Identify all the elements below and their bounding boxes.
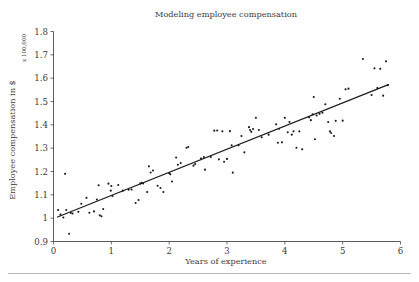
y-tick-label: 1.1 <box>34 190 48 200</box>
data-point <box>268 134 270 136</box>
data-point <box>371 94 373 96</box>
data-point <box>100 215 102 217</box>
trendline <box>58 85 389 217</box>
data-point <box>295 147 297 149</box>
data-point <box>102 208 104 210</box>
data-point <box>80 203 82 205</box>
data-point <box>345 88 347 90</box>
data-point <box>98 184 100 186</box>
data-point <box>68 233 70 235</box>
data-point <box>382 95 384 97</box>
data-point <box>96 198 98 200</box>
data-point <box>232 172 234 174</box>
data-point <box>362 58 364 60</box>
data-point <box>226 158 228 160</box>
y-axis-ticks: 0.911.11.21.31.41.51.61.71.8 <box>34 27 53 247</box>
data-point <box>93 210 95 212</box>
data-point <box>180 162 182 164</box>
data-point <box>150 171 152 173</box>
data-point <box>229 130 231 132</box>
data-point <box>313 96 315 98</box>
data-point <box>88 212 90 214</box>
data-point <box>157 185 159 187</box>
data-point <box>284 117 286 119</box>
data-point <box>373 67 375 69</box>
y-axis-units: x 100,000 <box>21 34 27 63</box>
data-point <box>218 158 220 160</box>
data-point <box>187 146 189 148</box>
y-tick-label: 1.5 <box>34 97 48 107</box>
x-tick-label: 4 <box>282 246 288 256</box>
data-point <box>107 183 109 185</box>
trendline-segment <box>58 85 389 217</box>
data-point <box>252 128 254 130</box>
data-point <box>298 130 300 132</box>
data-point <box>316 114 318 116</box>
y-tick-label: 1.4 <box>34 120 48 130</box>
data-point <box>110 185 112 187</box>
x-axis-title: Years of experience <box>184 256 266 266</box>
data-point <box>175 156 177 158</box>
data-point <box>64 173 66 175</box>
data-point <box>314 138 316 140</box>
data-point <box>333 135 335 137</box>
x-tick-label: 5 <box>340 246 345 256</box>
data-point <box>216 129 218 131</box>
y-tick-label: 0.9 <box>34 237 48 247</box>
data-point <box>137 199 139 201</box>
data-point <box>339 98 341 100</box>
data-point <box>192 165 194 167</box>
data-point <box>281 141 283 143</box>
data-point <box>223 161 225 163</box>
data-point <box>327 121 329 123</box>
data-point <box>204 169 206 171</box>
data-point <box>62 216 64 218</box>
data-point <box>248 126 250 128</box>
data-point <box>148 165 150 167</box>
data-point <box>249 129 251 131</box>
data-point <box>171 180 173 182</box>
data-point <box>194 163 196 165</box>
data-point <box>250 131 252 133</box>
x-tick-label: 2 <box>166 246 171 256</box>
data-point <box>169 173 171 175</box>
x-tick-label: 1 <box>109 246 114 256</box>
data-point <box>288 121 290 123</box>
data-point <box>231 144 233 146</box>
data-point <box>146 191 148 193</box>
data-point <box>135 202 137 204</box>
y-tick-label: 1.6 <box>34 73 48 83</box>
x-tick-label: 6 <box>398 246 403 256</box>
x-axis-ticks: 0123456 <box>51 242 403 257</box>
data-point <box>72 212 74 214</box>
figure-container: Modeling employee compensation Employee … <box>0 0 419 282</box>
data-point <box>301 148 303 150</box>
chart-title: Modeling employee compensation <box>155 9 298 19</box>
data-point <box>85 197 87 199</box>
data-point <box>240 135 242 137</box>
data-point <box>117 184 119 186</box>
data-point <box>255 117 257 119</box>
data-point <box>310 119 312 121</box>
data-point <box>131 188 133 190</box>
data-point <box>275 123 277 125</box>
data-point <box>347 88 349 90</box>
data-point <box>243 151 245 153</box>
scatter-chart: Modeling employee compensation Employee … <box>0 0 419 282</box>
data-point <box>152 170 154 172</box>
x-tick-label: 3 <box>224 246 229 256</box>
data-point <box>292 130 294 132</box>
x-tick-label: 0 <box>51 246 56 256</box>
data-point <box>57 209 59 211</box>
y-tick-label: 1.3 <box>34 143 48 153</box>
data-point <box>65 209 67 211</box>
data-point <box>177 164 179 166</box>
data-point <box>379 68 381 70</box>
y-tick-label: 1 <box>43 213 48 223</box>
data-point <box>342 120 344 122</box>
data-point <box>258 129 260 131</box>
data-point <box>213 130 215 132</box>
data-point <box>335 120 337 122</box>
data-point <box>77 211 79 213</box>
y-tick-label: 1.8 <box>34 27 48 37</box>
